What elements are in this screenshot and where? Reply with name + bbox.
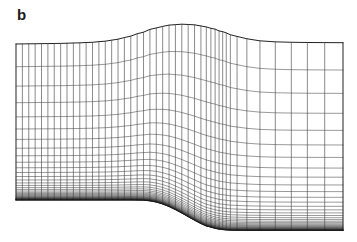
upper-boundary-line xyxy=(16,24,343,44)
grid-line-streamwise xyxy=(16,74,343,93)
figure-panel: b xyxy=(0,0,357,242)
grid-line-streamwise xyxy=(16,199,343,229)
grid-line-streamwise xyxy=(16,192,343,221)
grid-line-streamwise xyxy=(16,93,343,113)
grid-line-streamwise xyxy=(16,144,343,168)
grid-line-streamwise xyxy=(16,123,343,145)
grid-line-streamwise xyxy=(16,52,343,70)
mesh-lines-group xyxy=(16,24,343,230)
grid-line-streamwise xyxy=(16,199,343,229)
computational-grid xyxy=(0,0,357,242)
grid-line-streamwise xyxy=(16,109,343,130)
grid-line-streamwise xyxy=(16,152,343,177)
grid-line-streamwise xyxy=(16,189,343,218)
grid-line-streamwise xyxy=(16,134,343,157)
